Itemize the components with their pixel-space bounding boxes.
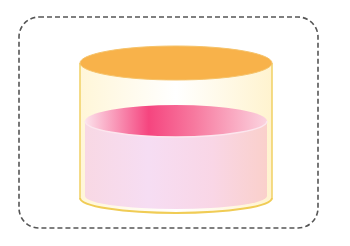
cylinder-diagram <box>0 0 350 246</box>
cylinder-lid <box>80 46 272 80</box>
